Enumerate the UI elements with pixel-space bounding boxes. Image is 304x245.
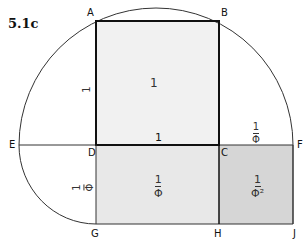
point-B: B xyxy=(221,7,228,18)
figure-title: 5.1c xyxy=(8,16,39,31)
point-H: H xyxy=(214,228,222,239)
numerator: 1 xyxy=(254,174,261,185)
side-DG-label: 1 Φ xyxy=(72,184,95,192)
denominator: Φ xyxy=(252,135,260,145)
rect-DGHC-area-label: 1 Φ xyxy=(154,174,163,199)
point-J: J xyxy=(293,228,296,239)
point-C: C xyxy=(221,147,228,158)
denominator: Φ² xyxy=(251,188,264,199)
point-D: D xyxy=(88,147,96,158)
denominator: Φ xyxy=(154,188,163,199)
side-AD-label: 1 xyxy=(81,86,92,92)
point-G: G xyxy=(91,228,99,239)
side-DC-label: 1 xyxy=(155,131,162,144)
numerator: 1 xyxy=(155,174,162,185)
denominator: Φ xyxy=(85,184,95,192)
square-area-label: 1 xyxy=(150,76,158,90)
numerator: 1 xyxy=(72,184,82,190)
segment-CF-label: 1 Φ xyxy=(252,122,260,145)
numerator: 1 xyxy=(253,122,259,132)
point-F: F xyxy=(297,139,303,150)
rect-CHJF-area-label: 1 Φ² xyxy=(251,174,264,199)
point-E: E xyxy=(9,139,15,150)
point-A: A xyxy=(87,7,94,18)
